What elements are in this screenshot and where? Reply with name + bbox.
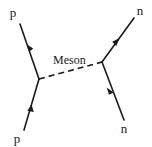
label-outgoing-proton: p [14,131,21,146]
label-outgoing-neutron: n [137,3,144,18]
diagram-canvas: p p n n Meson [0,0,152,147]
label-incoming-neutron: n [121,121,128,136]
lower-right-leg-line [102,62,124,120]
label-meson: Meson [53,53,86,67]
feynman-diagram-figure: p p n n Meson [0,0,152,147]
upper-right-leg-arrow-icon [112,38,119,46]
label-incoming-proton: p [10,5,17,20]
